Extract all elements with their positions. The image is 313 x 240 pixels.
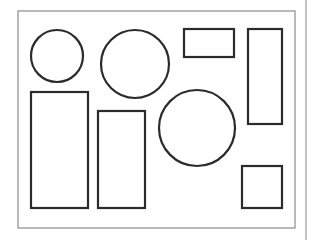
shapes-diagram <box>0 0 313 240</box>
background <box>0 0 313 240</box>
